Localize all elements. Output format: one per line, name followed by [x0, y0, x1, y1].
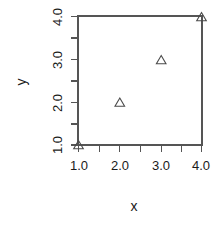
- x-tick-label-4: 4.0: [192, 158, 210, 173]
- y-tick-label-4: 4.0: [50, 8, 65, 26]
- plot-frame: [78, 16, 202, 145]
- y-axis-title: y: [13, 79, 29, 86]
- y-tick-label-1: 1.0: [50, 136, 65, 154]
- x-tick-label-3: 3.0: [152, 158, 170, 173]
- y-axis-ticks: [71, 17, 78, 146]
- y-tick-label-3: 3.0: [50, 51, 65, 69]
- x-axis-ticks: [79, 145, 202, 152]
- x-axis-title: x: [131, 198, 138, 214]
- x-axis-tick-labels: 1.0 2.0 3.0 4.0: [70, 158, 210, 173]
- x-tick-label-1: 1.0: [70, 158, 88, 173]
- x-tick-label-2: 2.0: [111, 158, 129, 173]
- y-tick-label-2: 2.0: [50, 94, 65, 112]
- plot-canvas: 1.0 2.0 3.0 4.0 4.0 3.0 2.0 1.0: [0, 0, 219, 228]
- y-axis-tick-labels: 4.0 3.0 2.0 1.0: [50, 8, 65, 154]
- scatter-plot-figure: 1.0 2.0 3.0 4.0 4.0 3.0 2.0 1.0: [0, 0, 219, 228]
